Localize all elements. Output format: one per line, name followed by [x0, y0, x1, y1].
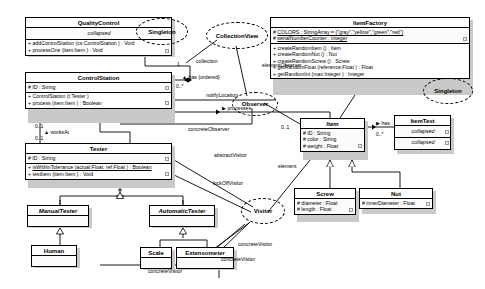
edge-label-elementobserver: elementObserver [262, 62, 302, 68]
operation-signature: isWithinTolerance (actual:Float, ref:Flo… [32, 165, 151, 171]
itemtest-compartment-2: collapsed [395, 137, 450, 149]
class-title-nut: Nut [360, 189, 432, 198]
edge-label-concretevisitor-3: concreteVisitor [148, 268, 182, 274]
operation-signature: getRandomInt (max:Integer ) : Integer [277, 71, 364, 77]
visibility-marker: + [273, 52, 276, 58]
edge-label-worksat: ▲ worksAt [44, 129, 69, 135]
pattern-observer[interactable]: Observer [232, 92, 278, 116]
scale-body [141, 257, 171, 268]
class-title-tester: Tester [26, 144, 171, 153]
edge-label-has-right: ▶ has [376, 120, 390, 126]
controlstation-attributes: # ID : String [26, 82, 171, 91]
item-attributes: # ID : String # color : String # weight … [301, 128, 364, 150]
pattern-label: Visitor [254, 208, 273, 214]
nut-attributes: # innerDiameter : Float [360, 198, 432, 207]
pattern-label: Singleton [434, 88, 461, 94]
class-tester[interactable]: Tester # ID : String + isWithinTolerance… [25, 143, 172, 180]
visibility-marker: # [303, 143, 306, 149]
multiplicity-item-left: 0..1 [281, 124, 289, 130]
class-title-human: Human [32, 246, 76, 255]
attribute-row[interactable]: # serialNumberCounter : Integer [273, 36, 468, 42]
resize-handle[interactable] [165, 49, 169, 53]
operation-row[interactable]: + processOne (item:Item ) : Void [28, 47, 170, 53]
tester-attributes: # ID : String [26, 153, 171, 162]
class-title-itemtest: ItemTest [395, 116, 450, 125]
resize-handle[interactable] [165, 172, 169, 176]
attribute-row[interactable]: # innerDiameter : Float [362, 200, 431, 206]
multiplicity-qc-bottom: 1 [177, 61, 180, 67]
operation-signature: testItem (item:Item ) : Void [32, 171, 93, 177]
visibility-marker: # [297, 207, 300, 213]
edge-label-kickoffvisitor: kickOffVisitor [213, 180, 243, 186]
attribute-row[interactable]: # ID : String [28, 84, 170, 90]
edge-label-abstractvisitor: abstractVisitor [214, 152, 247, 158]
class-itemfactory[interactable]: ItemFactory # COLORS : StringArray = {"g… [270, 17, 470, 79]
attribute-text: ID : String [307, 130, 330, 136]
class-manualtester[interactable]: ManualTester [27, 205, 89, 227]
edge-label-notifylocation: notifyLocation [206, 92, 238, 98]
multiplicity-tester-bottom: 0..1 [35, 135, 43, 141]
itemfactory-operations: + createRandomItem () : Item + createRan… [271, 43, 469, 78]
attribute-text: diameter : Float [301, 200, 337, 206]
edge-label-text: has {ordered} [189, 74, 220, 80]
edge-label-text: worksAt [51, 129, 69, 135]
attribute-text: ID : String [32, 84, 55, 90]
resize-handle[interactable] [165, 101, 169, 105]
visibility-marker: + [28, 165, 31, 171]
resize-handle[interactable] [445, 141, 449, 145]
pattern-singleton-itemfactory[interactable]: Singleton [423, 78, 473, 104]
screw-attributes: # diameter : Float # length : Float [295, 198, 355, 214]
pattern-singleton-qualitycontrol[interactable]: Singleton [136, 18, 188, 45]
class-nut[interactable]: Nut # innerDiameter : Float [359, 188, 433, 209]
operation-row[interactable]: + process (item:Item ) : Boolean [28, 100, 170, 106]
resize-handle[interactable] [445, 130, 449, 134]
resize-handle[interactable] [165, 86, 169, 90]
resize-handle[interactable] [349, 208, 353, 212]
multiplicity-item-right: 0..* [376, 131, 384, 137]
class-title-scale: Scale [141, 248, 171, 257]
class-item[interactable]: Item # ID : String # color : String # we… [300, 118, 365, 152]
class-controlstation[interactable]: ControlStation # ID : String + ControlSt… [25, 72, 172, 109]
class-title-item: Item [301, 119, 364, 128]
resize-handle[interactable] [463, 37, 467, 41]
controlstation-operations: + ControlStation (t:Tester ) + process (… [26, 92, 171, 108]
operation-signature: ControlStation (t:Tester ) [32, 94, 88, 100]
attribute-row[interactable]: # weight : Float [303, 143, 363, 149]
visibility-marker: + [28, 171, 31, 177]
class-screw[interactable]: Screw # diameter : Float # length : Floa… [294, 188, 356, 215]
attribute-text: weight : Float [307, 143, 338, 149]
resize-handle[interactable] [426, 202, 430, 206]
edge-label-processes: ▶ processes [222, 105, 251, 111]
visibility-marker: + [28, 41, 31, 47]
multiplicity-cs-star: 0..* [176, 83, 184, 89]
collapsed-label: collapsed [397, 139, 449, 148]
pattern-collectionview[interactable]: CollectionView [206, 22, 268, 49]
visibility-marker: # [273, 29, 276, 35]
direction-triangle-icon: ▶ [222, 105, 226, 111]
visibility-marker: # [273, 36, 276, 42]
resize-handle[interactable] [358, 144, 362, 148]
class-itemtest[interactable]: ItemTest collapsed collapsed [394, 115, 451, 150]
operation-row[interactable]: + getRandomInt (max:Integer ) : Integer [273, 71, 468, 77]
operation-signature: processOne (item:Item ) : Void [32, 47, 102, 53]
visibility-marker: # [28, 84, 31, 90]
class-scale[interactable]: Scale [140, 247, 172, 269]
visibility-marker: # [303, 137, 306, 143]
edge-label-concreteobserver-left: concreteObserver [188, 126, 229, 132]
class-automatictester[interactable]: AutomaticTester [149, 205, 215, 227]
attribute-text: innerDiameter : Float [366, 200, 414, 206]
pattern-label: Singleton [148, 29, 175, 35]
pattern-visitor[interactable]: Visitor [241, 198, 285, 224]
operation-signature: addControlStation (cs:ControlStation ) :… [32, 41, 134, 47]
resize-handle[interactable] [165, 157, 169, 161]
operation-row[interactable]: + testItem (item:Item ) : Void [28, 171, 170, 177]
edge-label-text: processes [227, 105, 251, 111]
attribute-text: color : String [307, 137, 336, 143]
operation-signature: createRandomItem () : Item [277, 45, 340, 51]
uml-diagram-canvas: QualityControl collapsed + addControlSta… [0, 0, 485, 289]
pattern-label: CollectionView [216, 33, 259, 39]
attribute-row[interactable]: # ID : String [28, 155, 170, 161]
attribute-row[interactable]: # length : Float [297, 207, 354, 213]
visibility-marker: + [28, 100, 31, 106]
class-human[interactable]: Human [31, 245, 77, 267]
